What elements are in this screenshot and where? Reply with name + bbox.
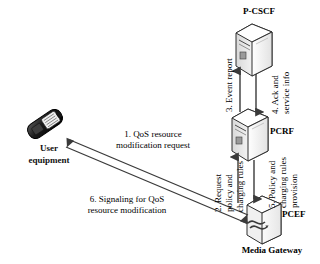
node-label-pcef: PCEF (282, 209, 320, 220)
network-signalling-diagram: P-CSCF PCRF PCEF Media Gateway User equi… (0, 0, 320, 264)
message-5-line2: charging rules (278, 157, 289, 208)
node-label-pcscf: P-CSCF (228, 6, 290, 17)
node-label-pcrf: PCRF (270, 126, 316, 137)
message-label-2: 2. Request policy and charging rules (213, 161, 246, 212)
message-4-line1: 4. Ack and (270, 72, 281, 114)
message-1-line2: modification request (98, 140, 208, 151)
message-label-1: 1. QoS resource modification request (98, 129, 208, 151)
message-5-line3: provision (289, 157, 300, 208)
server-tower-icon-pcscf (236, 24, 272, 76)
node-label-user-equipment: User equipment (10, 142, 88, 166)
message-label-3: 3. Event report (224, 58, 235, 112)
message-5-line1: 5. Policy and (267, 157, 278, 208)
user-equipment-label-line2: equipment (10, 154, 88, 166)
message-label-6: 6. Signaling for QoS resource modificati… (62, 194, 192, 216)
message-2-line2: policy and (224, 161, 235, 212)
mobile-phone-icon (25, 107, 66, 142)
message-2-line1: 2. Request (213, 161, 224, 212)
message-4-line2: service info (281, 72, 292, 114)
message-6-line2: resource modification (62, 205, 192, 216)
message-6-line1: 6. Signaling for QoS (62, 194, 192, 205)
server-tower-icon-pcrf (232, 109, 268, 161)
message-1-line1: 1. QoS resource (98, 129, 208, 140)
message-label-4: 4. Ack and service info (270, 72, 292, 114)
message-label-5: 5. Policy and charging rules provision (267, 157, 300, 208)
node-label-media-gateway: Media Gateway (224, 245, 320, 256)
user-equipment-label-line1: User (10, 142, 88, 154)
message-2-line3: charging rules (235, 161, 246, 212)
